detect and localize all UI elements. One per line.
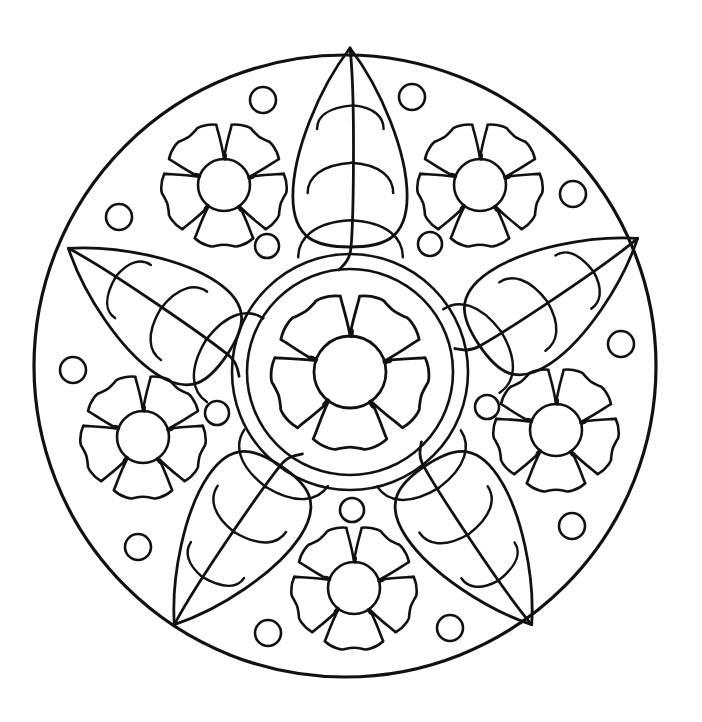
mandala-artwork <box>0 0 702 722</box>
coloring-page-canvas <box>0 0 702 722</box>
